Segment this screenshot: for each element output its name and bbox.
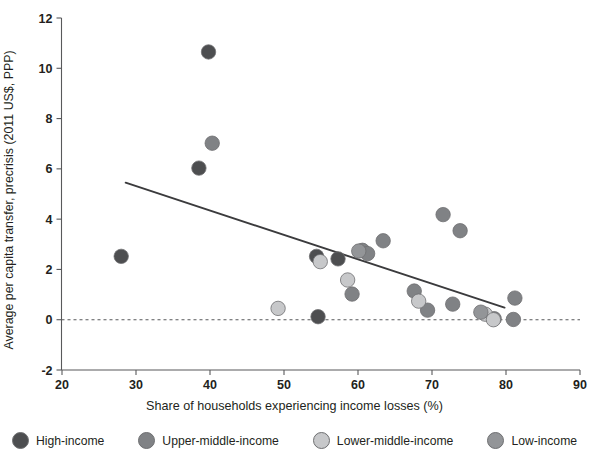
scatter-chart-figure: -20246810122030405060708090 Average per … [0, 0, 589, 467]
data-point[interactable] [192, 161, 206, 175]
data-point[interactable] [411, 294, 425, 308]
legend-item-low[interactable]: Low-income [487, 432, 577, 449]
x-tick-label: 70 [425, 378, 439, 392]
data-point[interactable] [205, 136, 219, 150]
legend-label: Lower-middle-income [337, 434, 454, 448]
x-tick-label: 80 [499, 378, 513, 392]
data-point[interactable] [436, 207, 450, 221]
x-tick-label: 20 [55, 378, 69, 392]
x-axis-title: Share of households experiencing income … [0, 399, 589, 413]
data-point[interactable] [271, 301, 285, 315]
x-tick-label: 30 [129, 378, 143, 392]
data-point[interactable] [352, 244, 366, 258]
legend-marker-icon [313, 432, 330, 449]
legend-label: Low-income [511, 434, 577, 448]
trend-line [126, 183, 505, 308]
data-point[interactable] [331, 252, 345, 266]
legend-marker-icon [12, 432, 29, 449]
chart-legend: High-incomeUpper-middle-incomeLower-midd… [0, 432, 589, 449]
legend-item-lower_middle[interactable]: Lower-middle-income [313, 432, 454, 449]
data-point[interactable] [340, 273, 354, 287]
plot-canvas: -20246810122030405060708090 [0, 0, 589, 400]
legend-label: High-income [36, 434, 104, 448]
data-point[interactable] [506, 312, 520, 326]
data-point[interactable] [345, 287, 359, 301]
x-tick-label: 40 [203, 378, 217, 392]
x-tick-label: 90 [573, 378, 587, 392]
legend-marker-icon [138, 432, 155, 449]
x-tick-label: 50 [277, 378, 291, 392]
y-tick-label: 4 [46, 213, 53, 227]
legend-label: Upper-middle-income [162, 434, 279, 448]
y-tick-label: -2 [41, 364, 52, 378]
legend-item-high[interactable]: High-income [12, 432, 104, 449]
legend-item-upper_middle[interactable]: Upper-middle-income [138, 432, 279, 449]
x-tick-label: 60 [351, 378, 365, 392]
data-point[interactable] [446, 297, 460, 311]
data-point[interactable] [201, 45, 215, 59]
y-tick-label: 6 [46, 162, 53, 176]
data-point[interactable] [486, 313, 500, 327]
y-tick-label: 2 [46, 263, 53, 277]
plot-area: -20246810122030405060708090 Average per … [0, 0, 589, 400]
data-point[interactable] [474, 305, 488, 319]
legend-marker-icon [487, 432, 504, 449]
data-point[interactable] [313, 254, 327, 268]
y-tick-label: 12 [39, 12, 53, 26]
data-point[interactable] [311, 310, 325, 324]
y-tick-label: 0 [46, 313, 53, 327]
data-point[interactable] [453, 224, 467, 238]
data-point[interactable] [114, 249, 128, 263]
y-tick-label: 10 [39, 62, 53, 76]
y-tick-label: 8 [46, 112, 53, 126]
data-point[interactable] [508, 291, 522, 305]
data-point[interactable] [376, 234, 390, 248]
